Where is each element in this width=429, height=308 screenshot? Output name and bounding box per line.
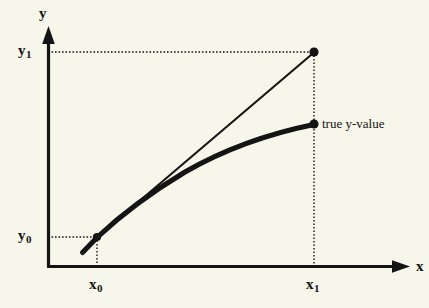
y-axis-label: y <box>39 6 47 21</box>
guide-lines <box>48 52 314 266</box>
y-tick-bottom-base: y <box>18 227 26 243</box>
interpolation-diagram: y x y1 y0 x0 x1 true y-value <box>0 0 429 308</box>
extrapolated-point-marker <box>309 47 318 56</box>
start-point-marker <box>93 233 101 241</box>
true-curve <box>83 125 315 253</box>
x-tick-right-subscript: 1 <box>314 282 320 294</box>
x-tick-left-subscript: 0 <box>97 282 103 294</box>
y-axis-arrowhead <box>42 26 55 44</box>
x-tick-left-base: x <box>89 276 97 292</box>
y-tick-bottom-subscript: 0 <box>26 233 32 245</box>
x-axis-arrowhead <box>392 260 410 273</box>
x-tick-label-left: x0 <box>89 277 103 294</box>
y-tick-top-subscript: 1 <box>26 48 32 60</box>
x-tick-label-right: x1 <box>306 277 320 294</box>
y-tick-label-bottom: y0 <box>18 228 32 245</box>
x-tick-right-base: x <box>306 276 314 292</box>
true-y-value-label: true y-value <box>322 117 384 130</box>
plot-canvas <box>0 0 429 308</box>
x-axis-label: x <box>416 259 424 274</box>
true-value-point-marker <box>309 119 318 128</box>
y-tick-label-top: y1 <box>18 43 32 60</box>
y-tick-top-base: y <box>18 42 26 58</box>
